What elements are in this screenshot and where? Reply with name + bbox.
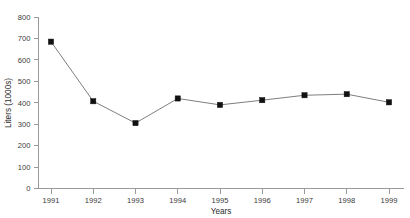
x-tick-label: 1991 (43, 196, 60, 205)
series-data-point (48, 39, 53, 44)
series-data-point (133, 121, 138, 126)
x-tick-label: 1995 (212, 196, 229, 205)
y-tick-label: 200 (18, 141, 31, 150)
y-tick-label: 800 (18, 13, 31, 22)
series-data-point (260, 98, 265, 103)
x-tick-label: 1994 (169, 196, 186, 205)
y-tick-label: 500 (18, 77, 31, 86)
x-tick-label: 1993 (127, 196, 144, 205)
y-tick-label: 100 (18, 163, 31, 172)
y-tick-label: 700 (18, 34, 31, 43)
y-tick-label: 0 (26, 184, 30, 193)
y-tick-label: 400 (18, 99, 31, 108)
series-data-point (91, 99, 96, 104)
x-tick-label: 1992 (85, 196, 102, 205)
series-data-point (302, 93, 307, 98)
x-tick-label: 1999 (381, 196, 398, 205)
series-markers (48, 39, 391, 126)
series-data-point (344, 92, 349, 97)
chart-plot-area: 0100200300400500600700800 19911992199319… (0, 0, 410, 218)
x-tick-label: 1997 (296, 196, 313, 205)
x-tick-label: 1998 (338, 196, 355, 205)
x-tick-label: 1996 (254, 196, 271, 205)
y-axis-title: Liters (1000s) (4, 78, 13, 128)
y-tick-label: 300 (18, 120, 31, 129)
series-line-liters (51, 42, 389, 123)
line-chart-figure: 0100200300400500600700800 19911992199319… (0, 0, 410, 218)
series-data-point (175, 96, 180, 101)
x-axis-ticks: 199119921993199419951996199719981999 (43, 189, 398, 205)
y-axis-ticks: 0100200300400500600700800 (18, 13, 39, 194)
series-data-point (386, 100, 391, 105)
x-axis-title: Years (211, 207, 232, 216)
y-tick-label: 600 (18, 56, 31, 65)
series-data-point (217, 102, 222, 107)
